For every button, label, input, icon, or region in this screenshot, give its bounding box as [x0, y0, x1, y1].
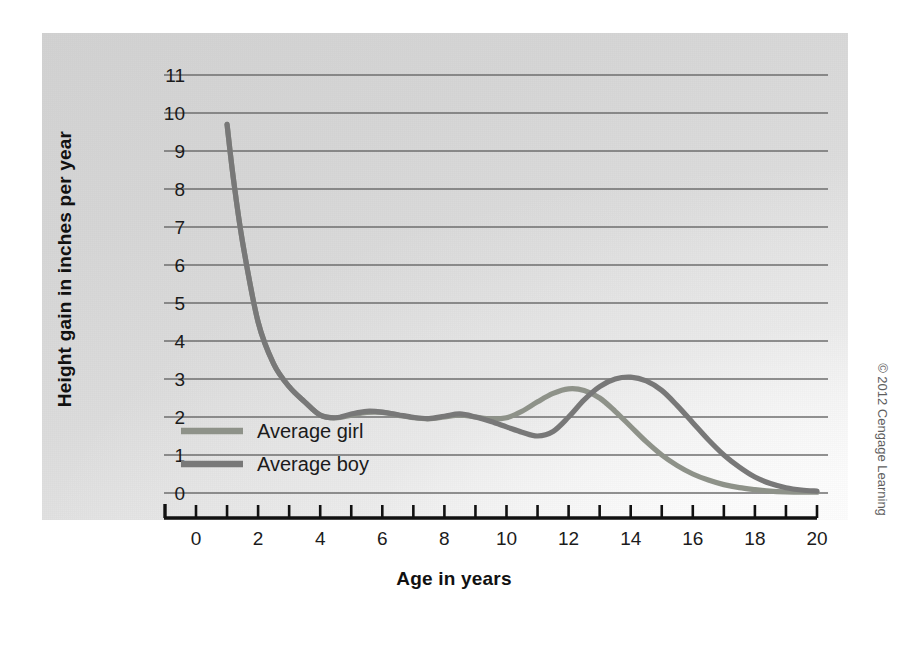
chart-legend: Average girlAverage boy — [181, 420, 369, 475]
y-tick-label: 11 — [165, 65, 185, 86]
x-tick-label: 18 — [744, 528, 765, 549]
x-tick-label: 12 — [558, 528, 579, 549]
y-tick-label: 10 — [164, 103, 185, 124]
x-tick-label: 20 — [806, 528, 827, 549]
y-tick-label: 4 — [174, 331, 185, 352]
y-tick-label: 5 — [174, 293, 185, 314]
y-tick-label: 2 — [174, 407, 185, 428]
y-tick-label: 0 — [174, 483, 185, 504]
y-axis-title-wrapper: Height gain in inches per year — [54, 99, 76, 439]
copyright-credit: © 2012 Cengage Learning — [875, 345, 890, 535]
x-tick-label: 6 — [377, 528, 388, 549]
legend-label: Average girl — [257, 420, 363, 442]
y-tick-label: 3 — [174, 369, 185, 390]
y-axis-title: Height gain in inches per year — [54, 99, 76, 439]
x-tick-label: 8 — [439, 528, 450, 549]
x-tick-label: 0 — [191, 528, 202, 549]
x-axis-tick-labels: 02468101214161820 — [191, 528, 828, 549]
y-axis-tick-labels: 01234567891011 — [164, 65, 186, 504]
x-tick-label: 4 — [315, 528, 326, 549]
copyright-credit-wrapper: © 2012 Cengage Learning — [875, 345, 890, 535]
y-tick-label: 8 — [174, 179, 185, 200]
x-tick-label: 2 — [253, 528, 264, 549]
x-axis-line-and-ticks — [164, 504, 817, 518]
x-axis-title: Age in years — [0, 568, 908, 590]
x-tick-label: 10 — [496, 528, 517, 549]
legend-label: Average boy — [257, 453, 369, 475]
x-tick-label: 14 — [620, 528, 642, 549]
y-tick-label: 7 — [174, 217, 185, 238]
x-tick-label: 16 — [682, 528, 703, 549]
chart-plot-area: 01234567891011 02468101214161820 Average… — [0, 0, 908, 646]
y-tick-label: 9 — [174, 141, 185, 162]
y-tick-label: 6 — [174, 255, 185, 276]
figure-container: 01234567891011 02468101214161820 Average… — [0, 0, 908, 646]
